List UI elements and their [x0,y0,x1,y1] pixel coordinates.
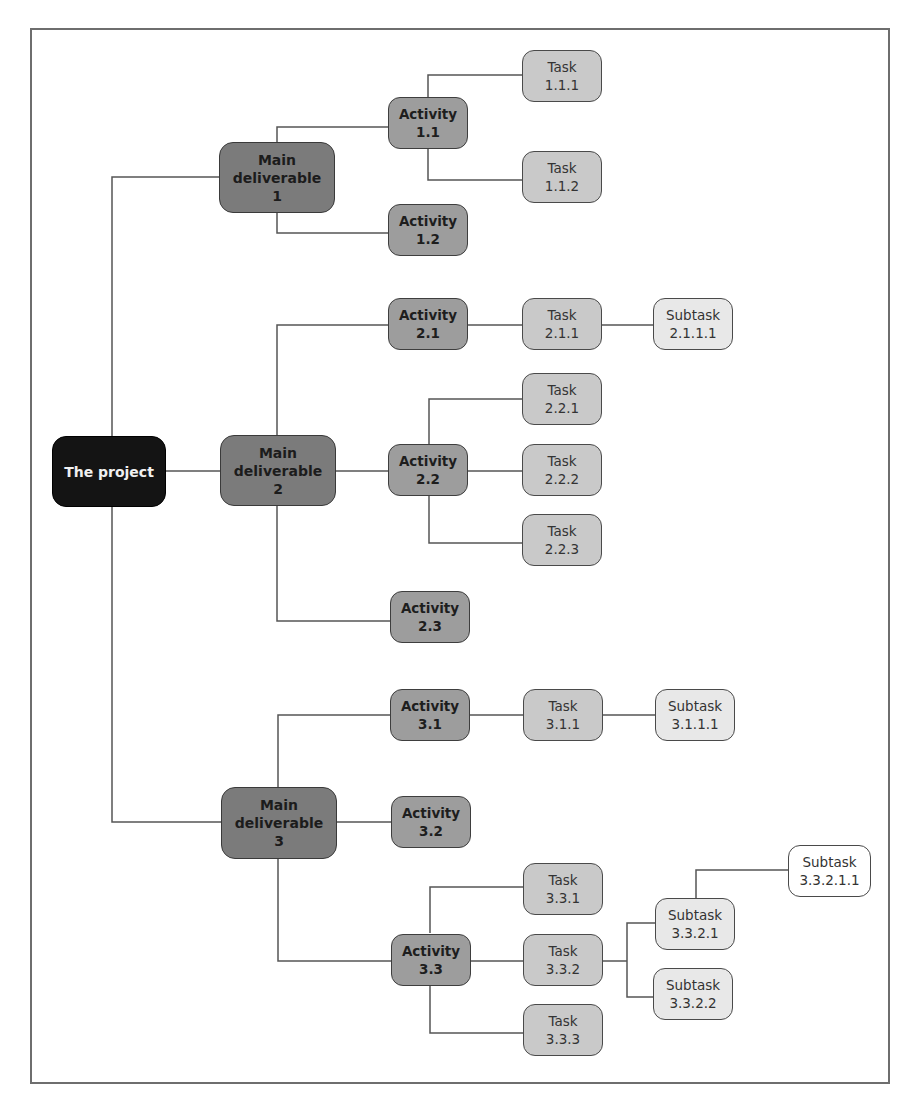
node-activity-3-2: Activity 3.2 [391,796,471,848]
node-label: 2.2.3 [545,540,579,558]
node-label: 3.3 [419,960,443,978]
node-activity-1-1: Activity 1.1 [388,97,468,149]
node-label: Activity [399,306,457,324]
node-activity-2-3: Activity 2.3 [390,591,470,643]
node-subtask-2-1-1-1: Subtask 2.1.1.1 [653,298,733,350]
node-main-deliverable-1: Main deliverable 1 [219,142,335,213]
node-label: Task [548,871,577,889]
node-label: Main [258,151,296,169]
node-label: 1.1.1 [545,76,579,94]
node-label: 1 [272,187,282,205]
node-subtask-3-3-2-2: Subtask 3.3.2.2 [653,968,733,1020]
node-label: 2.2.1 [545,399,579,417]
node-label: Activity [399,212,457,230]
node-label: Activity [402,942,460,960]
node-task-3-3-1: Task 3.3.1 [523,863,603,915]
node-label: 3.3.2.1.1 [799,871,859,889]
node-label: Task [547,306,576,324]
node-label: 2.2 [416,470,440,488]
node-label: Main [259,444,297,462]
node-main-deliverable-3: Main deliverable 3 [221,787,337,859]
node-label: Activity [402,804,460,822]
node-task-2-2-3: Task 2.2.3 [522,514,602,566]
node-label: Subtask [666,976,720,994]
node-activity-1-2: Activity 1.2 [388,204,468,256]
node-label: 3 [274,832,284,850]
node-task-3-3-2: Task 3.3.2 [523,934,603,986]
node-task-3-1-1: Task 3.1.1 [523,689,603,741]
node-task-2-2-1: Task 2.2.1 [522,373,602,425]
node-task-2-2-2: Task 2.2.2 [522,444,602,496]
node-activity-2-1: Activity 2.1 [388,298,468,350]
node-label: 3.3.3 [546,1030,580,1048]
node-subtask-3-3-2-1: Subtask 3.3.2.1 [655,898,735,950]
node-label: deliverable [234,462,322,480]
node-label: Subtask [668,697,722,715]
node-task-2-1-1: Task 2.1.1 [522,298,602,350]
node-label: The project [64,463,154,481]
node-label: deliverable [235,814,323,832]
node-label: 2.1.1 [545,324,579,342]
node-task-1-1-1: Task 1.1.1 [522,50,602,102]
node-label: 1.1 [416,123,440,141]
node-subtask-3-1-1-1: Subtask 3.1.1.1 [655,689,735,741]
node-label: Subtask [666,306,720,324]
node-label: 3.3.2.1 [671,924,718,942]
node-label: Task [547,522,576,540]
node-the-project: The project [52,436,166,507]
node-label: 1.2 [416,230,440,248]
node-label: 2.1 [416,324,440,342]
node-activity-3-1: Activity 3.1 [390,689,470,741]
node-label: 2.1.1.1 [669,324,716,342]
node-label: 2.2.2 [545,470,579,488]
node-label: 3.1 [418,715,442,733]
node-label: Activity [401,599,459,617]
node-label: 3.1.1.1 [671,715,718,733]
node-label: 1.1.2 [545,177,579,195]
node-task-3-3-3: Task 3.3.3 [523,1004,603,1056]
node-label: Activity [401,697,459,715]
node-main-deliverable-2: Main deliverable 2 [220,435,336,506]
node-label: 3.3.1 [546,889,580,907]
node-label: 3.3.2 [546,960,580,978]
node-label: Task [548,1012,577,1030]
node-subtask-3-3-2-1-1: Subtask 3.3.2.1.1 [788,845,871,897]
node-label: Task [548,697,577,715]
node-activity-3-3: Activity 3.3 [391,934,471,986]
node-label: Task [547,452,576,470]
node-label: Task [547,159,576,177]
node-label: Activity [399,452,457,470]
node-label: 3.2 [419,822,443,840]
node-label: Main [260,796,298,814]
node-label: 2.3 [418,617,442,635]
node-label: Subtask [802,853,856,871]
node-label: 3.3.2.2 [669,994,716,1012]
node-activity-2-2: Activity 2.2 [388,444,468,496]
node-label: Task [548,942,577,960]
node-label: 2 [273,480,283,498]
node-label: Activity [399,105,457,123]
node-task-1-1-2: Task 1.1.2 [522,151,602,203]
node-label: Subtask [668,906,722,924]
node-label: Task [547,381,576,399]
node-label: 3.1.1 [546,715,580,733]
node-label: deliverable [233,169,321,187]
node-label: Task [547,58,576,76]
